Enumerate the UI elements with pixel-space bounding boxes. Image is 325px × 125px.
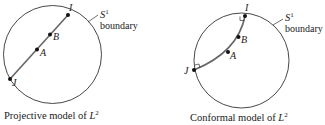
point-J <box>192 68 196 72</box>
projective-model-figure: I B A J S1 boundary Projective model of … <box>4 2 138 121</box>
label-A: A <box>39 47 47 58</box>
boundary-symbol: S1 <box>100 8 109 20</box>
point-I <box>66 13 70 17</box>
label-A: A <box>229 50 237 61</box>
label-I: I <box>244 2 249 13</box>
point-B <box>48 33 52 37</box>
point-B <box>237 35 241 39</box>
boundary-leader-line <box>273 19 283 25</box>
label-J: J <box>184 65 189 76</box>
boundary-leader-line <box>88 15 98 22</box>
conformal-model-figure: I B A J S1 boundary Conformal model of L… <box>184 2 323 123</box>
geodesic-chord <box>10 15 68 79</box>
point-A <box>35 48 39 52</box>
geodesic-arc <box>194 16 245 70</box>
caption-projective: Projective model of L2 <box>4 109 99 121</box>
label-J: J <box>12 77 17 88</box>
boundary-circle <box>4 6 102 104</box>
boundary-symbol: S1 <box>285 11 294 23</box>
label-B: B <box>53 31 59 42</box>
label-I: I <box>68 2 73 13</box>
hyperbolic-models-diagram: I B A J S1 boundary Projective model of … <box>0 0 325 125</box>
point-I <box>243 14 247 18</box>
boundary-label: boundary <box>285 23 323 34</box>
caption-conformal: Conformal model of L2 <box>190 111 288 123</box>
boundary-label: boundary <box>100 20 138 31</box>
label-B: B <box>241 34 247 45</box>
